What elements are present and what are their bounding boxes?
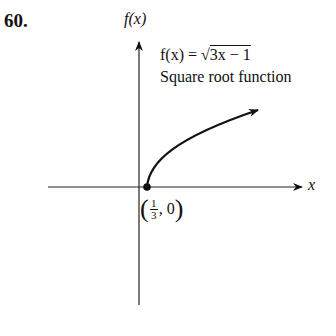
point-label: ( 1 3 , 0 ) xyxy=(140,196,183,222)
point-rest: , 0 xyxy=(159,200,175,218)
function-curve xyxy=(147,110,258,187)
close-paren-icon: ) xyxy=(175,196,184,222)
open-paren-icon: ( xyxy=(140,196,149,222)
fraction-denominator: 3 xyxy=(151,210,157,221)
start-point-dot xyxy=(143,183,151,191)
fraction-numerator: 1 xyxy=(151,198,157,209)
plot-area xyxy=(0,0,336,336)
fraction: 1 3 xyxy=(150,198,158,221)
